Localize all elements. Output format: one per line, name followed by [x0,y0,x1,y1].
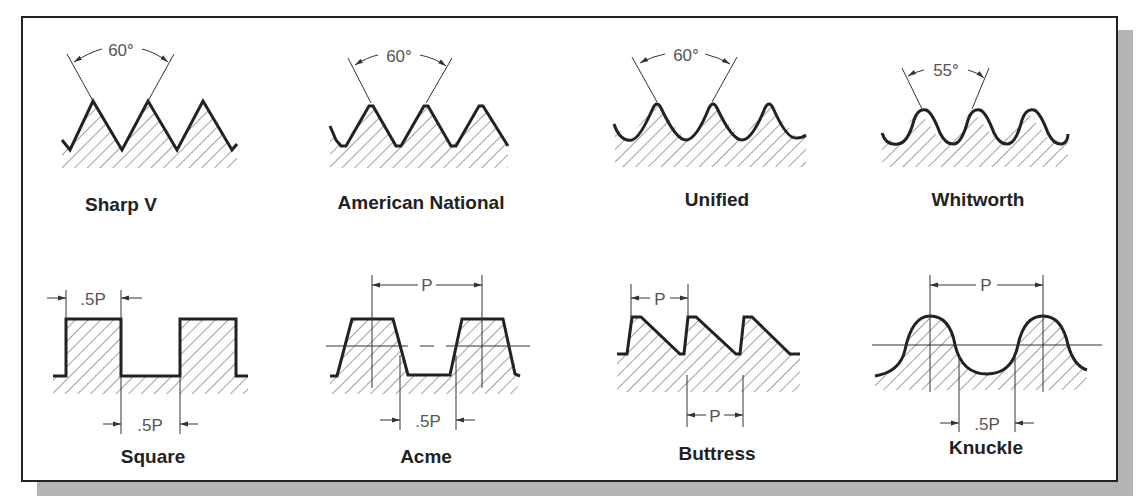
buttress-label: Buttress [678,443,755,465]
sharp-v-angle-label: 60° [108,41,134,60]
square-bottom-dimension: .5P [137,416,163,435]
unified-label: Unified [685,189,749,211]
knuckle-thread-drawing: P .5P [872,275,1102,434]
whitworth-label: Whitworth [932,189,1025,211]
acme-label: Acme [400,446,452,468]
whitworth-angle-label: 55° [933,61,959,80]
sharp-v-label: Sharp V [85,194,157,216]
buttress-top-pitch-dimension: P [654,290,665,309]
knuckle-label: Knuckle [949,437,1023,459]
knuckle-pitch-dimension: P [980,276,991,295]
unified-angle-label: 60° [673,46,699,65]
knuckle-half-pitch-dimension: .5P [974,415,1000,434]
thread-forms-diagram: 60° 60° 60° 55° .5P [0,0,1148,503]
sharp-v-thread-drawing: 60° [62,41,237,168]
acme-thread-drawing: P .5P [326,275,530,431]
square-thread-drawing: .5P .5P [47,290,248,435]
unified-thread-drawing: 60° [614,46,806,167]
square-label: Square [121,446,185,468]
american-national-angle-label: 60° [386,47,412,66]
buttress-bottom-pitch-dimension: P [709,407,720,426]
square-top-dimension: .5P [80,290,106,309]
american-national-thread-drawing: 60° [330,47,508,168]
american-national-label: American National [338,192,505,214]
acme-pitch-dimension: P [421,276,432,295]
whitworth-thread-drawing: 55° [882,61,1068,167]
buttress-thread-drawing: P P [617,284,800,427]
acme-half-pitch-dimension: .5P [415,412,441,431]
